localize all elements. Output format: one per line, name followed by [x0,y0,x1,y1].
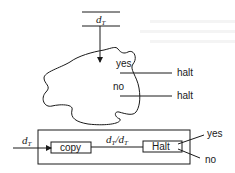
yes-halt-label: halt [177,67,193,78]
no-halt-label: halt [177,90,193,101]
bleed-through-text [140,20,235,43]
machine-input-symbol: dT [22,134,33,148]
copy-label: copy [60,142,81,153]
middle-symbol: dT/dT [106,133,129,147]
machine-no-line [178,149,200,158]
input-tape: dT [82,12,120,27]
blob-yes-label: yes [116,58,132,69]
machine-yes-label: yes [207,128,223,139]
tape-symbol: dT [96,13,107,27]
halting-problem-diagram: dT yes no halt halt dT copy dT/dT Halt y… [0,0,235,173]
blob-no-label: no [113,81,125,92]
halt-label: Halt [152,141,170,152]
machine-yes-line [178,135,204,144]
machine-no-label: no [205,154,217,165]
